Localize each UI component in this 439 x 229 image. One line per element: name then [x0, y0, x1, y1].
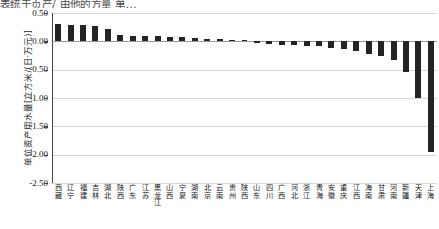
- x-tick-label: 贵州: [227, 184, 237, 199]
- y-tick-label: -0.50: [8, 64, 48, 74]
- bar: [155, 36, 161, 41]
- x-tick-label: 黑龙江: [153, 184, 163, 207]
- y-tick-label: -2.00: [8, 149, 48, 159]
- gridline: [52, 13, 437, 14]
- y-tick-label: 0.50: [8, 8, 48, 18]
- x-tick-label: 吉林: [90, 184, 100, 199]
- bar: [229, 40, 235, 42]
- x-axis-tick-labels: 西藏辽宁福建吉林湖北陕西广东江苏黑龙江山西宁夏湖南北京云南贵州陕西山东四川广西河…: [52, 184, 437, 229]
- bar: [366, 41, 372, 53]
- bar: [341, 41, 347, 48]
- bar: [92, 26, 98, 41]
- y-tick-mark: [44, 13, 48, 14]
- bar: [192, 38, 198, 41]
- x-tick-label: 云南: [215, 184, 225, 199]
- bar: [204, 39, 210, 42]
- x-tick-label: 青海: [314, 184, 324, 199]
- bar: [254, 41, 260, 43]
- x-tick-label: 重庆: [339, 184, 349, 199]
- bar: [142, 36, 148, 42]
- y-tick-mark: [44, 41, 48, 42]
- y-axis-spine: [52, 13, 53, 183]
- x-tick-label: 广西: [277, 184, 287, 199]
- x-tick-label: 新疆: [401, 184, 411, 199]
- x-tick-label: 河北: [289, 184, 299, 199]
- x-tick-label: 西藏: [53, 184, 63, 199]
- y-axis-tick-labels: 0.500.00-0.50-1.00-1.50-2.00-2.50: [0, 13, 48, 183]
- bar: [179, 37, 185, 41]
- x-tick-label: 江苏: [140, 184, 150, 199]
- x-tick-label: 上海: [426, 184, 436, 199]
- plot-area: [52, 13, 437, 183]
- bar: [242, 40, 248, 41]
- bar: [304, 41, 310, 46]
- x-tick-label: 天津: [413, 184, 423, 199]
- bar: [391, 41, 397, 60]
- bar: [80, 25, 86, 41]
- x-tick-label: 福建: [78, 184, 88, 199]
- x-tick-label: 山东: [252, 184, 262, 199]
- x-tick-label: 湖南: [190, 184, 200, 199]
- bar: [68, 25, 74, 41]
- y-tick-label: -1.50: [8, 121, 48, 131]
- bar: [291, 41, 297, 45]
- plot-inner: [52, 13, 437, 183]
- x-tick-label: 海南: [364, 184, 374, 199]
- y-tick-mark: [44, 183, 48, 184]
- y-tick-label: 0.00: [8, 36, 48, 46]
- bar: [378, 41, 384, 56]
- x-tick-label: 辽宁: [66, 184, 76, 199]
- gridline: [52, 126, 437, 127]
- bar: [403, 41, 409, 72]
- bar: [217, 39, 223, 41]
- y-tick-mark: [44, 126, 48, 127]
- x-tick-label: 广东: [128, 184, 138, 199]
- bar: [328, 41, 334, 47]
- y-tick-label: -1.00: [8, 93, 48, 103]
- x-tick-label: 四川: [264, 184, 274, 199]
- bar: [266, 41, 272, 44]
- gridline: [52, 98, 437, 99]
- x-tick-label: 江西: [351, 184, 361, 199]
- x-tick-label: 北京: [202, 184, 212, 199]
- x-tick-label: 河南: [389, 184, 399, 199]
- bar: [167, 37, 173, 42]
- x-tick-label: 山西: [165, 184, 175, 199]
- x-tick-label: 浙江: [302, 184, 312, 199]
- bar: [279, 41, 285, 44]
- bar: [428, 41, 434, 152]
- x-tick-label: 安徽: [326, 184, 336, 199]
- bar: [415, 41, 421, 98]
- gridline: [52, 155, 437, 156]
- y-tick-label: -2.50: [8, 178, 48, 188]
- y-tick-mark: [44, 155, 48, 156]
- x-tick-label: 甘肃: [376, 184, 386, 199]
- x-tick-label: 陕西: [240, 184, 250, 199]
- x-tick-label: 宁夏: [177, 184, 187, 199]
- y-tick-mark: [44, 70, 48, 71]
- gridline: [52, 70, 437, 71]
- bar: [130, 36, 136, 42]
- x-tick-label: 陕西: [115, 184, 125, 199]
- bar: [117, 35, 123, 42]
- bar: [316, 41, 322, 46]
- bar: [55, 24, 61, 41]
- chart-figure: 表统于页产/ 由他的方量 单... 单位资产用水量[立方米/(日·万元)] 0.…: [0, 0, 439, 229]
- y-tick-mark: [44, 98, 48, 99]
- bar: [105, 29, 111, 41]
- bar: [353, 41, 359, 51]
- x-tick-label: 湖北: [103, 184, 113, 199]
